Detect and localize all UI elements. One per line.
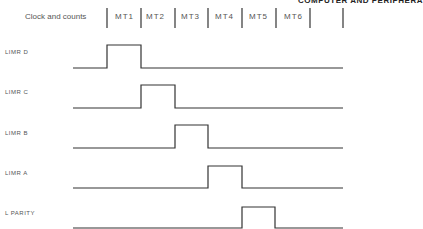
waveform-limr-c: [73, 85, 343, 108]
waveform-l-parity: [73, 207, 343, 228]
waveform-limr-b: [73, 125, 343, 148]
waveform-limr-a: [73, 166, 343, 188]
waveform-limr-d: [73, 45, 343, 68]
